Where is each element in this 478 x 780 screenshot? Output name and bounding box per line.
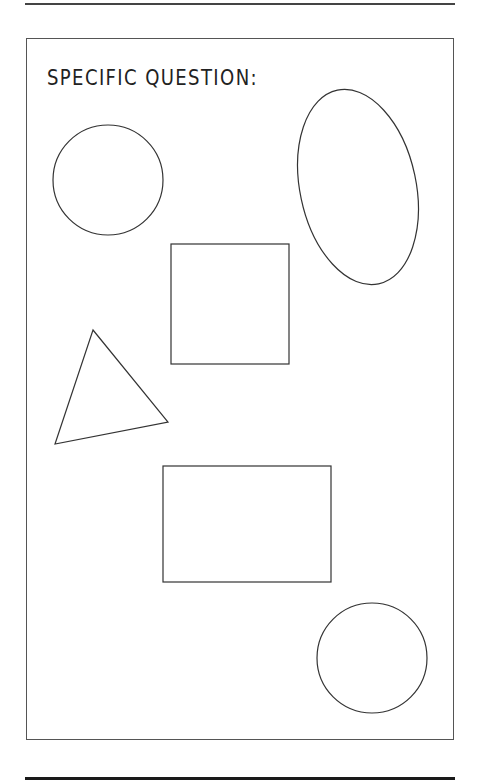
circle-top-left [53, 125, 163, 235]
square-center [171, 244, 289, 364]
ellipse-top-right [281, 78, 436, 296]
bottom-rule-line [25, 777, 455, 780]
circle-bottom-right [317, 603, 427, 713]
triangle-left [55, 330, 168, 444]
rectangle-center [163, 466, 331, 582]
shapes-canvas [0, 0, 478, 780]
